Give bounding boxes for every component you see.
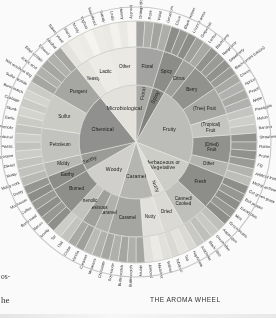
ring3-leaf-label: Plastic	[1, 144, 13, 149]
ring2-category-label: Moldy	[57, 162, 70, 167]
page-text-fragment-left-bottom: he	[1, 295, 10, 305]
ring2-category-label: Spicy	[161, 70, 173, 75]
ring3-leaf-label: Pineapple	[255, 103, 273, 112]
ring3-leaf-label: Hay/straw	[192, 250, 205, 268]
ring3-leaf-label: Skunk	[6, 104, 18, 112]
ring2-category-label: Fresh	[194, 180, 206, 185]
ring3-leaf-label: Strawberry jam	[259, 133, 276, 139]
aroma-wheel-figure: Orange blossomRoseVioletGeraniumFloralFl…	[0, 0, 276, 318]
ring2-category-label: Petroleum	[50, 142, 71, 147]
scan-edge-artifact	[0, 314, 276, 318]
ring3-leaf-label: Molasses	[87, 258, 97, 275]
ring3-leaf-label: Raisin	[259, 144, 270, 149]
ring3-leaf-label: Butterscotch	[128, 265, 134, 287]
ring2-category-label: Floral	[142, 64, 154, 69]
ring3-leaf-label: Cedar	[62, 244, 72, 256]
ring2-category-label: Dried	[161, 209, 172, 214]
ring2-category-label: Nutty	[145, 214, 156, 219]
ring2-category-label: Other	[119, 64, 131, 69]
ring3-leaf-label: Leafy	[109, 11, 116, 21]
ring3-leaf-label: Fig	[257, 162, 263, 168]
ring3-leaf-label: Clove	[174, 15, 182, 26]
ring1-category-label: Fruity	[163, 127, 177, 133]
ring3-leaf-label: Apricot	[244, 76, 258, 87]
ring3-leaf-label: Musty	[6, 171, 17, 179]
ring3-leaf-label: Mint	[234, 213, 244, 222]
ring2-category-label: (Tree) Fruit	[193, 106, 217, 111]
ring3-leaf-label: Hazelnut	[157, 263, 165, 280]
ring3-leaf-label: Violet	[156, 10, 163, 21]
ring2-category-label: Berry	[186, 88, 198, 93]
ring1-category-label: Chemical	[92, 127, 114, 133]
ring3-leaf-label: Moldy	[72, 22, 81, 34]
ring3-leaf-label: Tea	[184, 254, 191, 263]
ring1-category-label: Microbiological	[107, 105, 142, 111]
ring2-category-label: Lactic	[100, 70, 113, 75]
ring2-category-label: Canned/Cooked	[175, 196, 193, 206]
ring2-category-label: Other	[203, 162, 215, 167]
ring3-leaf-label: Apple	[252, 95, 263, 103]
ring3-leaf-label: Garlic	[4, 114, 15, 121]
ring3-leaf-label: Soy sauce	[107, 263, 115, 282]
ring3-leaf-label: Diesel	[3, 162, 15, 169]
ring3-leaf-label: Peach	[248, 85, 260, 94]
ring3-leaf-label: Caramel	[78, 254, 89, 270]
ring3-leaf-label: Medicinal	[0, 134, 13, 140]
ring3-leaf-label: Chocolate	[97, 261, 106, 279]
ring3-leaf-label: Horsey	[119, 7, 125, 20]
ring3-leaf-label: Tar	[50, 233, 58, 241]
aroma-wheel-svg: Orange blossomRoseVioletGeraniumFloralFl…	[0, 0, 276, 318]
ring1-category-label: Caramel	[126, 174, 146, 180]
ring3-leaf-label: Prune	[258, 153, 269, 159]
figure-caption: THE AROMA WHEEL	[150, 296, 221, 303]
ring3-leaf-label: Moldy cork	[1, 180, 20, 191]
page-text-fragment-left-top: os-	[1, 272, 10, 281]
ring3-leaf-label: Oak	[56, 240, 64, 249]
ring2-category-label: Citrus	[173, 76, 186, 81]
ring3-leaf-label: Rose	[147, 10, 153, 20]
ring3-leaf-label: Honey	[139, 265, 144, 276]
ring2-category-label: Pungent	[70, 90, 88, 95]
ring3-leaf-label: Cabbage	[4, 93, 21, 103]
ring3-leaf-label: Blackcurrant (cassis)	[234, 44, 267, 70]
ring2-category-label: Earthy	[61, 172, 75, 177]
ring1-category-label: Woody	[106, 166, 123, 172]
ring3-leaf-label: Orange blossom	[138, 0, 144, 19]
ring2-category-label: Burned	[69, 187, 84, 192]
ring3-leaf-label: Dusty	[12, 189, 23, 198]
ring3-leaf-label: Geranium	[165, 5, 174, 23]
ring3-leaf-label: Melon	[257, 114, 268, 121]
ring2-category-label: Caramel	[119, 215, 136, 220]
ring2-category-label: Sulfur	[58, 114, 70, 119]
